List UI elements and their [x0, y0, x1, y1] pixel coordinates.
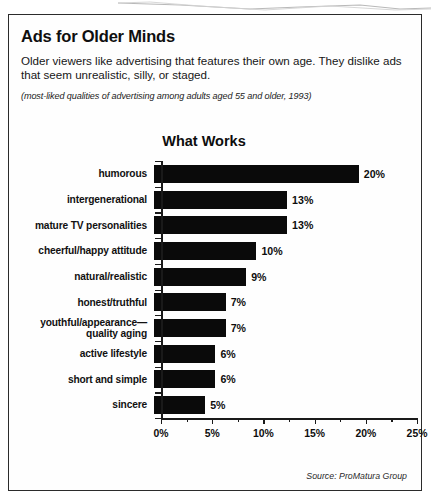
- bar-value-label: 7%: [231, 296, 246, 308]
- x-axis-tick-minor: [289, 418, 290, 422]
- bar-row: honest/truthful7%: [19, 289, 413, 315]
- y-axis-tick: [155, 341, 161, 342]
- y-axis-tick: [155, 238, 161, 239]
- x-axis-tick-major: [315, 418, 316, 424]
- chart-title: What Works: [9, 133, 423, 149]
- bar-category-label: intergenerational: [19, 194, 154, 205]
- bar: [154, 319, 226, 337]
- article-lede: Older viewers like advertising that feat…: [21, 54, 409, 82]
- x-axis-tick-minor: [238, 418, 239, 422]
- figure-box: Ads for Older Minds Older viewers like a…: [8, 14, 422, 491]
- y-axis-tick: [155, 212, 161, 213]
- bar: [154, 293, 226, 311]
- bar-chart: What Works humorous20%intergenerational1…: [9, 133, 423, 489]
- page-title: Ads for Older Minds: [21, 27, 409, 46]
- bar: [154, 191, 287, 209]
- bar-row: intergenerational13%: [19, 187, 413, 213]
- chart-plot-area: humorous20%intergenerational13%mature TV…: [19, 161, 413, 453]
- bar-category-label: humorous: [19, 168, 154, 179]
- bar-row: mature TV personalities13%: [19, 212, 413, 238]
- bar: [154, 268, 246, 286]
- bar-value-label: 13%: [292, 219, 313, 231]
- bar-row: cheerful/happy attitude10%: [19, 238, 413, 264]
- bar-value-label: 6%: [220, 348, 235, 360]
- x-axis-tick-minor: [391, 418, 392, 422]
- bar-category-label: short and simple: [19, 374, 154, 385]
- x-axis-tick-label: 0%: [153, 428, 168, 439]
- bar-row: sincere5%: [19, 392, 413, 418]
- x-axis-tick-major: [417, 418, 418, 424]
- bar-category-label: cheerful/happy attitude: [19, 245, 154, 256]
- bar-row: natural/realistic9%: [19, 264, 413, 290]
- bar-row: active lifestyle6%: [19, 341, 413, 367]
- x-axis-tick-label: 15%: [304, 428, 325, 439]
- bar-category-label: honest/truthful: [19, 297, 154, 308]
- bar: [154, 370, 215, 388]
- y-axis-tick: [155, 187, 161, 188]
- x-axis-tick-minor: [340, 418, 341, 422]
- bar-track: 6%: [154, 341, 413, 367]
- x-axis-tick-major: [212, 418, 213, 424]
- x-axis-tick-label: 10%: [253, 428, 274, 439]
- y-axis-tick: [155, 392, 161, 393]
- bar-category-label: sincere: [19, 399, 154, 410]
- bar-track: 7%: [154, 315, 413, 341]
- bar: [154, 242, 256, 260]
- x-axis-tick-label: 5%: [205, 428, 220, 439]
- bar: [154, 216, 287, 234]
- bar-value-label: 5%: [210, 399, 225, 411]
- bar-row: youthful/appearance— quality aging7%: [19, 315, 413, 341]
- bar-row: humorous20%: [19, 161, 413, 187]
- y-axis-tick: [155, 315, 161, 316]
- bar-value-label: 13%: [292, 194, 313, 206]
- y-axis-tick: [155, 161, 161, 162]
- source-credit: Source: ProMatura Group: [306, 471, 407, 481]
- y-axis-tick: [155, 367, 161, 368]
- y-axis-tick: [155, 290, 161, 291]
- bar-track: 5%: [154, 392, 413, 418]
- bar-category-label: active lifestyle: [19, 348, 154, 359]
- bar-category-label: mature TV personalities: [19, 220, 154, 231]
- bar-track: 20%: [154, 161, 413, 187]
- bar: [154, 345, 215, 363]
- bar-value-label: 10%: [261, 245, 282, 257]
- bar-track: 10%: [154, 238, 413, 264]
- bar-track: 7%: [154, 289, 413, 315]
- x-axis-tick-major: [366, 418, 367, 424]
- bar-value-label: 7%: [231, 322, 246, 334]
- bar-row: short and simple6%: [19, 367, 413, 393]
- y-axis-line: [161, 161, 163, 418]
- article-subnote: (most-liked qualities of advertising amo…: [21, 91, 409, 101]
- x-axis-tick-major: [263, 418, 264, 424]
- bar-value-label: 6%: [220, 373, 235, 385]
- bar: [154, 165, 359, 183]
- x-axis-tick-label: 25%: [407, 428, 428, 439]
- x-axis-tick-label: 20%: [355, 428, 376, 439]
- y-axis-tick: [155, 264, 161, 265]
- x-axis-tick-minor: [187, 418, 188, 422]
- bar-category-label: natural/realistic: [19, 271, 154, 282]
- bar-rows: humorous20%intergenerational13%mature TV…: [19, 161, 413, 418]
- bar-value-label: 9%: [251, 271, 266, 283]
- bar-track: 6%: [154, 367, 413, 393]
- bar-track: 13%: [154, 212, 413, 238]
- x-axis-tick-major: [161, 418, 162, 424]
- bar-category-label: youthful/appearance— quality aging: [19, 317, 154, 340]
- bar-value-label: 20%: [364, 168, 385, 180]
- bar-track: 13%: [154, 187, 413, 213]
- x-axis-tick-labels: 0%5%10%15%20%25%: [19, 428, 413, 444]
- bar-track: 9%: [154, 264, 413, 290]
